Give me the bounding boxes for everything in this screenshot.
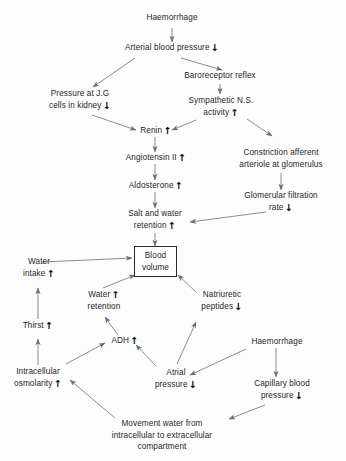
node-aldosterone[interactable]: Aldosterone↑	[113, 180, 199, 192]
up-arrow-icon: ↑	[52, 378, 62, 389]
node-atrial-pressure[interactable]: Atrial pressure↓	[142, 367, 210, 390]
down-arrow-icon: ↓	[233, 301, 243, 312]
node-label-line2: rate	[269, 203, 284, 212]
node-label-line1: Pressure at J.G	[28, 88, 132, 100]
node-label-line2: arteriole at glomerulus	[219, 159, 343, 171]
node-label-line1: Glomerular filtration	[222, 190, 340, 202]
node-label: Arterial blood pressure	[125, 43, 210, 52]
node-label-line2: cells in kidney	[49, 101, 101, 110]
node-label-line2: volume	[141, 262, 170, 274]
node-label-line2: intracellular to extracellular	[95, 430, 229, 442]
node-label: Thirst	[23, 321, 44, 330]
edge-atrial-pressure-to-natriuretic	[177, 322, 196, 364]
node-label-line2: activity	[203, 108, 229, 117]
node-label-line1: Natriuretic	[179, 289, 265, 301]
node-glomerular-filtration-rate[interactable]: Glomerular filtration rate↓	[222, 190, 340, 213]
edge-osmolarity-to-adh	[66, 343, 105, 364]
node-label-line2: osmolarity	[14, 379, 52, 388]
node-label: Aldosterone	[129, 181, 174, 190]
node-salt-and-water-retention[interactable]: Salt and water retention↑	[111, 208, 199, 231]
node-haemorrhage-top[interactable]: Haemorrhage	[128, 12, 216, 24]
node-pressure-at-jg-cells[interactable]: Pressure at J.G cells in kidney↓	[28, 88, 132, 111]
node-haemorrhage-lower[interactable]: Haemorrhage	[234, 336, 320, 348]
node-label-line2: pressure	[261, 391, 294, 400]
up-arrow-icon: ↑	[177, 152, 187, 163]
edge-arterial-bp-to-pressure-jg	[93, 58, 135, 87]
node-label-line3: compartment	[95, 441, 229, 453]
up-arrow-icon: ↑	[44, 320, 54, 331]
node-label-line1: Salt and water	[111, 208, 199, 220]
edge-sympathetic-to-constriction	[247, 119, 272, 136]
node-thirst[interactable]: Thirst↑	[12, 320, 64, 332]
node-constriction-afferent-arteriole[interactable]: Constriction afferent arteriole at glome…	[219, 147, 343, 170]
node-label-line1: Sympathetic N.S.	[172, 95, 270, 107]
up-arrow-icon: ↑	[129, 335, 139, 346]
node-label-line2: peptides	[201, 302, 233, 311]
node-label-line2: intake	[23, 269, 45, 278]
edge-movement-water-to-osmolarity	[70, 380, 115, 418]
down-arrow-icon: ↓	[294, 390, 304, 401]
node-movement-water-intracellular-extracellular[interactable]: Movement water from intracellular to ext…	[95, 418, 229, 453]
up-arrow-icon: ↑	[167, 220, 177, 231]
node-label-line1: Water	[88, 290, 110, 299]
edge-adh-to-water-retention	[105, 317, 118, 335]
node-label-line1: Atrial	[142, 367, 210, 379]
node-label-line1: Movement water from	[95, 418, 229, 430]
up-arrow-icon: ↑	[162, 125, 172, 136]
edge-arterial-bp-to-baroreceptor	[181, 58, 222, 70]
node-angiotensin-ii[interactable]: Angiotensin II↑	[111, 152, 201, 164]
up-arrow-icon: ↑	[45, 268, 55, 279]
node-sympathetic-ns-activity[interactable]: Sympathetic N.S. activity↑	[172, 95, 270, 118]
node-water-intake[interactable]: Water intake↑	[8, 256, 70, 279]
edge-pressure-jg-to-renin	[92, 115, 136, 130]
node-water-retention[interactable]: Water↑ retention	[68, 289, 140, 312]
node-renin[interactable]: Renin↑	[131, 125, 181, 137]
node-label-line1: Intracellular	[4, 366, 72, 378]
down-arrow-icon: ↓	[283, 202, 293, 213]
node-label-line1: Water	[8, 256, 70, 268]
node-label: Baroreceptor reflex	[170, 70, 270, 82]
node-label-line1: Blood	[141, 250, 170, 262]
edge-capillary-to-movement-water	[229, 405, 265, 419]
node-intracellular-osmolarity[interactable]: Intracellular osmolarity↑	[4, 366, 72, 389]
up-arrow-icon: ↑	[174, 180, 184, 191]
node-label-line1: Constriction afferent	[219, 147, 343, 159]
node-label-line2: pressure	[155, 380, 188, 389]
node-label-line1: Capillary blood	[238, 378, 326, 390]
node-arterial-blood-pressure[interactable]: Arterial blood pressure↓	[100, 42, 244, 54]
edge-gfr-to-salt-water	[190, 212, 266, 222]
edge-atrial-pressure-to-adh	[136, 345, 156, 366]
down-arrow-icon: ↓	[101, 100, 111, 111]
node-label-line2: retention	[134, 221, 167, 230]
node-blood-volume[interactable]: Blood volume	[134, 246, 177, 277]
node-label: Haemorrhage	[128, 12, 216, 24]
up-arrow-icon: ↑	[229, 107, 239, 118]
node-label: Renin	[140, 126, 162, 135]
node-label: Haemorrhage	[234, 336, 320, 348]
node-label: Angiotensin II	[126, 153, 177, 162]
up-arrow-icon: ↑	[110, 289, 120, 300]
node-adh[interactable]: ADH↑	[104, 335, 146, 347]
node-baroreceptor-reflex[interactable]: Baroreceptor reflex	[170, 70, 270, 82]
node-natriuretic-peptides[interactable]: Natriuretic peptides↓	[179, 289, 265, 312]
node-label: ADH	[111, 336, 129, 345]
node-capillary-blood-pressure[interactable]: Capillary blood pressure↓	[238, 378, 326, 401]
flowchart-canvas: Haemorrhage Arterial blood pressure↓ Bar…	[0, 0, 346, 461]
node-label-line2: retention	[68, 301, 140, 313]
down-arrow-icon: ↓	[188, 379, 198, 390]
edge-water-retention-to-blood-volume	[103, 275, 135, 288]
down-arrow-icon: ↓	[210, 42, 220, 53]
